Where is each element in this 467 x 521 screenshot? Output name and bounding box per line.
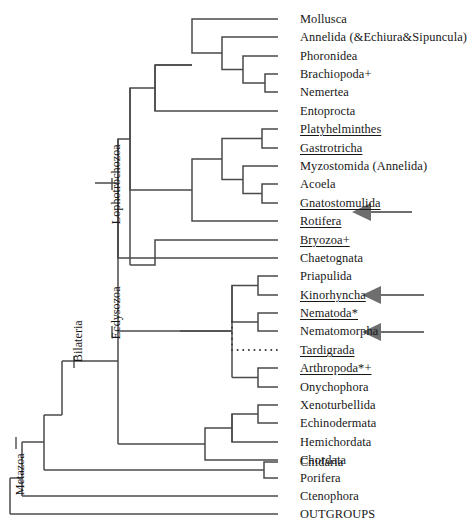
node-platyhelminthes-gastrotricha — [262, 129, 278, 148]
taxon-label-acoela: Acoela — [300, 178, 336, 190]
node-nematoda-nematomorpha — [258, 313, 278, 331]
branch-lines-lower — [10, 183, 278, 514]
clade-tick-marks — [16, 178, 112, 449]
node-priapulida-kinorhyncha — [258, 276, 278, 295]
node-annelida-clade — [222, 37, 278, 70]
taxon-label-gastrotricha: Gastrotricha — [300, 142, 362, 154]
taxon-label-nematoda: Nematoda* — [300, 307, 358, 319]
node-platyzoa — [222, 139, 262, 180]
node-ambulacraria — [232, 414, 278, 442]
taxon-label-annelida: Annelida (&Echiura&Sipuncula) — [300, 31, 467, 43]
pointer-arrows — [352, 203, 424, 341]
taxon-label-porifera: Porifera — [300, 472, 341, 484]
node-lophotrochozoa-core — [130, 88, 192, 190]
taxon-label-xenoturbellida: Xenoturbellida — [300, 399, 376, 411]
node-cnidaria-porifera — [264, 462, 278, 478]
taxon-label-gnatostomulida: Gnatostomulida — [300, 197, 381, 209]
taxon-label-kinorhyncha: Kinorhyncha — [300, 289, 366, 301]
taxon-label-entoprocta: Entoprocta — [300, 105, 355, 117]
taxon-label-ctenophora: Ctenophora — [300, 490, 359, 502]
arrow-nematoda — [362, 286, 424, 304]
node-mollusca-clade — [192, 19, 278, 53]
taxon-label-hemichordata: Hemichordata — [300, 436, 371, 448]
clade-label-ecdysozoa: Ecdysozoa — [110, 286, 122, 339]
node-xenoturbellida-echinodermata — [258, 405, 278, 423]
clade-label-metazoa: Metazoa — [14, 453, 26, 495]
taxon-label-phoronidea: Phoronidea — [300, 50, 357, 62]
taxon-label-platyhelminthes: Platyhelminthes — [300, 123, 381, 135]
taxon-label-onychophora: Onychophora — [300, 381, 369, 393]
taxon-label-nemertea: Nemertea — [300, 86, 349, 98]
dotted-tardigrada-branch — [232, 322, 278, 350]
taxon-label-brachiopoda: Brachiopoda+ — [300, 68, 372, 80]
taxon-label-arthropoda: Arthropoda*+ — [300, 362, 372, 374]
node-rotifera-clade — [192, 159, 278, 221]
node-phoronidea-clade — [243, 56, 278, 83]
node-arthropoda-onychophora — [258, 368, 278, 387]
node-acoela-gnatostomulida — [262, 184, 278, 203]
node-brachiopoda-nemertea — [265, 74, 278, 92]
taxon-label-outgroups: OUTGROUPS — [300, 508, 375, 520]
taxon-label-nematomorpha: Nematomorpha — [300, 325, 378, 337]
taxon-label-myzostomida: Myzostomida (Annelida) — [300, 160, 427, 172]
clade-label-bilateria: Bilateria — [72, 320, 84, 362]
taxon-label-mollusca: Mollusca — [300, 13, 347, 25]
taxon-label-bryozoa: Bryozoa+ — [300, 234, 350, 246]
node-bryozoa-clade — [130, 240, 278, 265]
node-link-upper — [155, 65, 192, 111]
taxon-label-chaetognata: Chaetognata — [300, 252, 363, 264]
node-myzostomida-clade — [243, 166, 278, 194]
taxon-label-rotifera: Rotifera — [300, 215, 341, 227]
taxon-label-priapulida: Priapulida — [300, 270, 352, 282]
taxon-label-echinodermata: Echinodermata — [300, 417, 376, 429]
node-cycloneuralia — [232, 286, 258, 323]
taxon-label-cnidaria: Cnidaria — [300, 456, 343, 468]
clade-label-lophotrochozoa: Lophotrochozoa — [110, 144, 122, 224]
node-chordata-clade — [205, 428, 278, 460]
node-entoprocta-clade — [155, 65, 278, 111]
taxon-label-tardigrada: Tardigrada — [300, 344, 354, 356]
